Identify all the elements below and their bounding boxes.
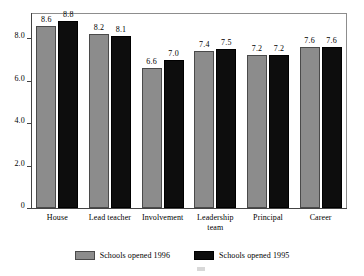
bar-1-5 [247,55,267,208]
bar-1-2 [89,34,109,208]
legend-item-2[interactable]: Schools opened 1995 [194,251,289,260]
bar-1-4 [194,51,214,208]
y-tick-mark [27,38,31,39]
chart-legend: Schools opened 1996Schools opened 1995 [0,251,364,260]
bar-1-1 [36,26,56,208]
y-axis-tick: 6.0 [0,81,31,82]
bar-2-6 [322,47,342,208]
category-label: Lead teacher [84,213,137,223]
y-tick-mark [27,166,31,167]
y-axis-tick: 2.0 [0,166,31,167]
bar-value-label: 7.5 [210,38,242,47]
x-axis [31,208,347,209]
bar-value-label: 7.2 [263,44,295,53]
bar-value-label: 7.6 [316,36,348,45]
bar-2-2 [111,36,131,208]
bar-2-5 [269,55,289,208]
y-axis-tick: 8.0 [0,38,31,39]
bar-1-3 [142,68,162,208]
y-tick-label: 8.0 [14,31,25,40]
legend-swatch-icon [75,251,95,260]
bar-2-3 [164,60,184,208]
category-label: Career [294,213,347,223]
category-label: House [31,213,84,223]
bar-2-1 [58,21,78,208]
bar-chart-figure: 02.04.06.08.0 8.68.88.28.16.67.07.47.57.… [0,0,364,276]
legend-item-1[interactable]: Schools opened 1996 [75,251,170,260]
y-axis-tick: 0 [0,208,31,209]
category-label: Principal [242,213,295,223]
y-tick-label: 2.0 [14,159,25,168]
scan-artifact [197,267,205,271]
legend-label: Schools opened 1995 [219,251,289,260]
y-axis-tick: 4.0 [0,123,31,124]
y-tick-label: 4.0 [14,116,25,125]
bar-value-label: 8.8 [52,10,84,19]
bar-value-label: 7.0 [158,49,190,58]
y-tick-label: 0 [21,201,25,210]
y-tick-mark [27,123,31,124]
legend-swatch-icon [194,251,214,260]
y-tick-label: 6.0 [14,74,25,83]
category-label: Involvement [136,213,189,223]
bar-1-6 [300,47,320,208]
bar-value-label: 8.1 [105,25,137,34]
y-tick-mark [27,81,31,82]
category-label: Leadership team [189,213,242,233]
legend-label: Schools opened 1996 [100,251,170,260]
bar-value-label: 6.6 [136,57,168,66]
y-axis [31,13,32,209]
bar-2-4 [216,49,236,208]
